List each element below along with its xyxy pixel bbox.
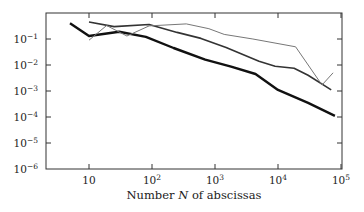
y-axis: 10−110−210−310−410−510−6 (14, 32, 342, 175)
y-tick-label: 10−5 (14, 136, 39, 149)
x-tick-label: 105 (332, 173, 350, 186)
x-axis: 10102103104105 (82, 13, 350, 186)
y-tick-label: 10−1 (14, 32, 38, 45)
y-tick-label: 10−4 (14, 110, 39, 123)
x-axis-label: Number N of abscissas (126, 188, 261, 202)
x-tick-label: 104 (269, 173, 287, 186)
x-tick-label: 10 (82, 174, 95, 186)
series-group (70, 22, 335, 116)
chart: 10102103104105 10−110−210−310−410−510−6 … (0, 0, 364, 212)
chart-svg: 10102103104105 10−110−210−310−410−510−6 … (0, 0, 364, 212)
x-tick-label: 103 (206, 173, 224, 186)
y-tick-label: 10−2 (14, 58, 39, 71)
y-tick-label: 10−6 (14, 162, 39, 175)
y-tick-label: 10−3 (14, 84, 39, 97)
x-tick-label: 102 (143, 173, 161, 186)
